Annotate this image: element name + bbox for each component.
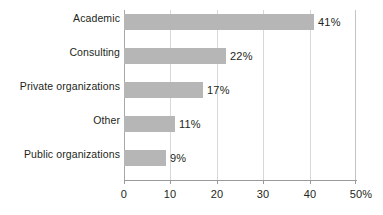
- x-tick-label-0: 0: [121, 188, 127, 200]
- bar-value-other: 11%: [179, 117, 201, 131]
- bar-consulting: [124, 48, 226, 64]
- category-label-private-organizations: Private organizations: [0, 79, 120, 93]
- x-tick-mark-30: [263, 180, 264, 184]
- x-tick-label-30: 30: [257, 188, 270, 200]
- bar-chart: Academic Consulting Private organization…: [0, 0, 383, 215]
- x-tick-label-40: 40: [304, 188, 317, 200]
- category-label-public-organizations: Public organizations: [0, 147, 120, 161]
- x-tick-mark-40: [310, 180, 311, 184]
- x-tick-mark-20: [217, 180, 218, 184]
- bar-public-organizations: [124, 150, 166, 166]
- x-tick-label-20: 20: [211, 188, 224, 200]
- category-label-academic: Academic: [0, 11, 120, 25]
- bar-academic: [124, 14, 314, 30]
- bar-value-consulting: 22%: [230, 49, 253, 63]
- x-tick-mark-10: [170, 180, 171, 184]
- bar-private-organizations: [124, 82, 203, 98]
- bar-value-academic: 41%: [318, 15, 341, 29]
- category-label-consulting: Consulting: [0, 45, 120, 59]
- bar-value-public-organizations: 9%: [170, 151, 186, 165]
- x-tick-label-50: 50%: [350, 188, 373, 200]
- x-tick-mark-50: [355, 180, 356, 184]
- gridline-50: [355, 10, 356, 180]
- category-label-other: Other: [0, 113, 120, 127]
- bar-value-private-organizations: 17%: [207, 83, 230, 97]
- gridline-40: [310, 10, 311, 180]
- bar-other: [124, 116, 175, 132]
- x-tick-mark-0: [124, 180, 125, 184]
- plot-area: 41% 22% 17% 11% 9%: [124, 10, 356, 180]
- x-tick-label-10: 10: [164, 188, 177, 200]
- gridline-30: [263, 10, 264, 180]
- x-axis-line: [124, 180, 357, 181]
